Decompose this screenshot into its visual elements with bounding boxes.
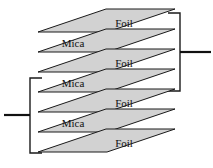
mica-capacitor-diagram: Foil Mica Foil Mica Foil Mica — [0, 0, 213, 168]
plate-label: Mica — [62, 37, 85, 49]
left-bracket-connector — [30, 78, 42, 153]
right-bracket-connector — [168, 13, 180, 91]
plate-stack-group: Foil Mica Foil Mica Foil Mica — [38, 9, 175, 152]
plate-label: Foil — [115, 17, 133, 29]
plate-label: Foil — [115, 97, 133, 109]
plate-label: Mica — [62, 117, 85, 129]
plate-label: Mica — [62, 77, 85, 89]
plate-label: Foil — [115, 57, 133, 69]
plate-label: Foil — [115, 137, 133, 149]
capacitor-diagram-figure: Foil Mica Foil Mica Foil Mica — [0, 0, 213, 168]
